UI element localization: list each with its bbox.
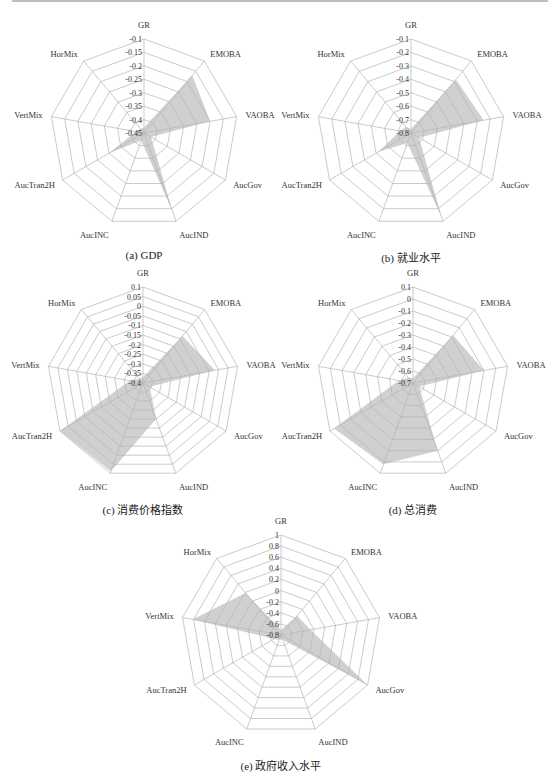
radar-chart-c: GREMOBAVAOBAAucGovAucINDAucINCAucTran2HV… [11,268,276,492]
axis-label-gr: GR [137,268,149,278]
tick-label: -0.7 [398,379,411,388]
tick-label: -0.4 [396,75,409,84]
tick-label: -0.45 [125,129,142,138]
axis-label-aucinc: AucINC [78,482,107,492]
axis-label-auctran2h: AucTran2H [282,180,322,190]
axis-spoke [281,558,345,635]
axis-label-gr: GR [407,268,419,278]
axis-label-vaoba: VAOBA [512,110,542,120]
axis-label-vertmix: VertMix [11,360,40,370]
axis-label-aucgov: AucGov [500,180,530,190]
axis-label-aucinc: AucINC [80,230,109,240]
axis-label-vaoba: VAOBA [246,360,276,370]
tick-label: -0.2 [266,598,279,607]
tick-label: -0.05 [124,312,141,321]
radar-chart-b: GREMOBAVAOBAAucGovAucINDAucINCAucTran2HV… [281,20,542,240]
axis-label-aucinc: AucINC [348,482,377,492]
tick-label: 0 [407,295,411,304]
radar-chart-a: GREMOBAVAOBAAucGovAucINDAucINCAucTran2HV… [14,20,275,240]
caption-e: (e) 政府收入水平 [181,757,381,773]
axis-label-vertmix: VertMix [281,360,310,370]
axis-label-hormix: HorMix [318,298,346,308]
tick-label: -0.6 [396,102,409,111]
axis-label-emoba: EMOBA [210,49,242,59]
axis-spoke [63,133,144,180]
tick-label: -0.5 [398,355,411,364]
axis-label-aucind: AucIND [179,482,208,492]
axis-label-aucind: AucIND [446,230,475,240]
axis-label-vertmix: VertMix [281,110,310,120]
tick-label: -0.2 [128,341,141,350]
data-area [109,75,210,211]
tick-label: -0.35 [125,102,142,111]
axis-label-vaoba: VAOBA [388,611,418,621]
tick-label: 0.4 [269,564,279,573]
tick-label: 0.1 [131,283,141,292]
axis-label-aucgov: AucGov [375,685,405,695]
tick-label: -0.7 [396,116,409,125]
tick-label: -0.3 [396,62,409,71]
tick-label: -0.15 [125,48,142,57]
tick-label: -0.3 [398,331,411,340]
tick-label: 0.8 [269,542,279,551]
tick-label: 0 [275,587,279,596]
tick-label: 0.1 [401,283,411,292]
axis-label-hormix: HorMix [48,298,76,308]
axis-label-aucinc: AucINC [215,737,244,747]
axis-label-gr: GR [275,516,287,526]
radar-chart-e: GREMOBAVAOBAAucGovAucINDAucINCAucTran2HV… [145,516,418,747]
tick-label: 1 [275,531,279,540]
tick-label: -0.5 [396,89,409,98]
axis-label-aucgov: AucGov [234,431,264,441]
axis-label-emoba: EMOBA [481,298,513,308]
axis-label-auctran2h: AucTran2H [12,431,52,441]
axis-label-auctran2h: AucTran2H [15,180,55,190]
axis-spoke [143,383,226,431]
tick-label: -0.35 [124,369,141,378]
tick-label: -0.2 [129,62,142,71]
axis-label-aucind: AucIND [179,230,208,240]
tick-label: -0.4 [129,116,142,125]
radar-chart-d: GREMOBAVAOBAAucGovAucINDAucINCAucTran2HV… [281,268,546,492]
tick-label: -0.1 [396,35,409,44]
axis-label-vaoba: VAOBA [516,360,546,370]
tick-label: 0.2 [269,575,279,584]
axis-label-gr: GR [138,20,150,30]
tick-label: -0.4 [266,609,279,618]
tick-label: -0.8 [396,129,409,138]
axis-label-aucgov: AucGov [233,180,263,190]
tick-label: -0.15 [124,331,141,340]
caption-d: (d) 总消费 [313,501,513,517]
axis-label-emoba: EMOBA [351,547,383,557]
axis-spoke [144,133,176,221]
caption-c: (c) 消费价格指数 [43,501,243,517]
axis-spoke [112,133,144,221]
tick-label: -0.25 [125,75,142,84]
tick-label: -0.6 [266,620,279,629]
axis-label-vertmix: VertMix [145,611,174,621]
tick-label: -0.1 [129,35,142,44]
tick-label: -0.4 [398,343,411,352]
axis-label-aucind: AucIND [318,737,347,747]
axis-label-aucinc: AucINC [347,230,376,240]
axis-label-auctran2h: AucTran2H [282,431,322,441]
axis-label-hormix: HorMix [317,49,345,59]
axis-label-hormix: HorMix [50,49,78,59]
caption-a: (a) GDP [44,249,244,261]
tick-label: -0.8 [266,631,279,640]
tick-label: -0.2 [398,319,411,328]
axis-label-vertmix: VertMix [14,110,43,120]
axis-label-emoba: EMOBA [477,49,509,59]
axis-spoke [330,133,411,180]
tick-label: 0.05 [127,293,141,302]
tick-label: 0 [137,302,141,311]
axis-label-auctran2h: AucTran2H [146,685,186,695]
axis-label-hormix: HorMix [184,547,212,557]
caption-b: (b) 就业水平 [311,249,511,265]
radar-chart-figure: GREMOBAVAOBAAucGovAucINDAucINCAucTran2HV… [0,0,560,783]
tick-label: -0.4 [128,379,141,388]
axis-label-gr: GR [405,20,417,30]
tick-label: -0.2 [396,48,409,57]
tick-label: -0.1 [128,321,141,330]
tick-label: 0.6 [269,553,279,562]
